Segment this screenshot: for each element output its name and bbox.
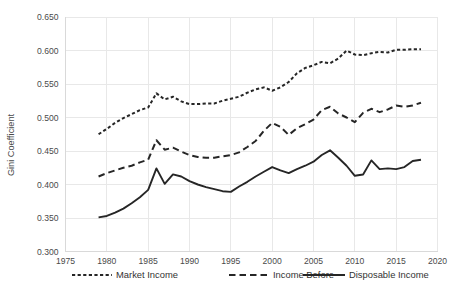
x-tick-label-2: 1985 [139, 256, 158, 266]
x-tick-label-1: 1980 [97, 256, 116, 266]
series-lines [99, 49, 421, 217]
y-tick-label-3: 0.450 [37, 146, 59, 156]
series-line-disposable-income [99, 150, 421, 217]
y-tick-label-7: 0.650 [37, 12, 59, 22]
chart-legend: Market IncomeIncome BeforeDisposable Inc… [72, 269, 429, 280]
y-axis-tick-labels: 0.3000.3500.4000.4500.5000.5500.6000.650 [37, 12, 59, 257]
chart-canvas: 0.3000.3500.4000.4500.5000.5500.6000.650… [0, 0, 452, 291]
x-tick-label-4: 1995 [221, 256, 240, 266]
x-tick-label-7: 2010 [345, 256, 364, 266]
x-tick-label-8: 2015 [387, 256, 406, 266]
y-tick-label-4: 0.500 [37, 113, 59, 123]
y-tick-label-2: 0.400 [37, 180, 59, 190]
x-tick-label-3: 1990 [180, 256, 199, 266]
series-line-market-income [99, 49, 421, 134]
legend-label-market-income: Market Income [116, 269, 178, 280]
y-tick-label-6: 0.600 [37, 46, 59, 56]
y-axis-title: Gini Coefficient [6, 113, 16, 176]
x-tick-label-9: 2020 [428, 256, 447, 266]
x-tick-label-6: 2005 [304, 256, 323, 266]
x-tick-label-5: 2000 [263, 256, 282, 266]
y-tick-label-1: 0.350 [37, 213, 59, 223]
gini-coefficient-chart: 0.3000.3500.4000.4500.5000.5500.6000.650… [0, 0, 452, 291]
y-tick-label-5: 0.550 [37, 79, 59, 89]
series-line-income-before [99, 103, 421, 177]
x-axis-tick-labels: 1975198019851990199520002005201020152020 [56, 256, 447, 266]
legend-label-disposable-income: Disposable Income [349, 269, 429, 280]
x-tick-label-0: 1975 [56, 256, 75, 266]
